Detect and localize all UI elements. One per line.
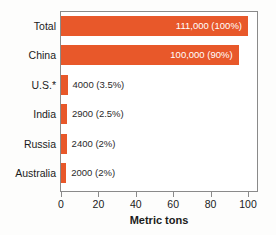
bar — [61, 163, 66, 183]
bar-row: Total111,000 (100%) — [0, 14, 276, 38]
axis-tick — [61, 192, 62, 197]
category-label: Russia — [0, 132, 56, 156]
bar-value-label: 100,000 (90%) — [170, 45, 232, 65]
bar — [61, 134, 67, 154]
category-label: Australia — [0, 161, 56, 185]
category-label: Total — [0, 14, 56, 38]
bar-row: Australia2000 (2%) — [0, 161, 276, 185]
axis-tick-label: 20 — [83, 198, 113, 210]
axis-tick — [173, 192, 174, 197]
bar-value-label: 2000 (2%) — [71, 163, 115, 183]
category-label: China — [0, 43, 56, 67]
axis-tick — [136, 192, 137, 197]
axis-tick-label: 0 — [46, 198, 76, 210]
bar-row: U.S.*4000 (3.5%) — [0, 73, 276, 97]
axis-tick — [98, 192, 99, 197]
bar-value-label: 2900 (2.5%) — [72, 104, 124, 124]
bar — [61, 75, 68, 95]
axis-tick-label: 80 — [196, 198, 226, 210]
bar-row: Russia2400 (2%) — [0, 132, 276, 156]
axis-tick-label: 60 — [158, 198, 188, 210]
axis-tick-label: 100 — [233, 198, 263, 210]
bar-value-label: 4000 (3.5%) — [73, 75, 125, 95]
x-axis-title: Metric tons — [60, 214, 258, 226]
axis-tick-label: 40 — [121, 198, 151, 210]
axis-tick — [211, 192, 212, 197]
bar-row: China100,000 (90%) — [0, 43, 276, 67]
bar-row: India2900 (2.5%) — [0, 102, 276, 126]
bar-chart: Total111,000 (100%)China100,000 (90%)U.S… — [0, 0, 276, 235]
bar-value-label: 2400 (2%) — [72, 134, 116, 154]
axis-tick — [248, 192, 249, 197]
category-label: U.S.* — [0, 73, 56, 97]
category-label: India — [0, 102, 56, 126]
bar-value-label: 111,000 (100%) — [176, 16, 242, 36]
bar — [61, 104, 67, 124]
